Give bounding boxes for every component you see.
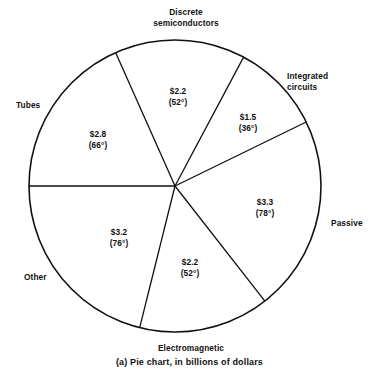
slice-value-degrees-tubes: (66°) — [89, 139, 108, 150]
slice-value-passive: $3.3 (78°) — [256, 197, 275, 218]
slice-value-amount-discrete-semiconductors: $2.2 — [169, 86, 188, 97]
spoke-62deg — [175, 57, 244, 186]
slice-value-degrees-discrete-semiconductors: (52°) — [169, 96, 188, 107]
category-label-integrated-circuits-line2: circuits — [287, 81, 328, 92]
category-label-discrete-semiconductors: Discrete semiconductors — [153, 7, 219, 28]
category-label-electromagnetic-line1: Electromagnetic — [158, 343, 224, 353]
slice-value-degrees-passive: (78°) — [256, 207, 275, 218]
slice-value-other: $3.2 (76°) — [110, 227, 129, 248]
category-label-discrete-semiconductors-line2: semiconductors — [153, 17, 219, 28]
category-label-other-line1: Other — [24, 272, 47, 282]
category-label-passive: Passive — [331, 218, 363, 229]
pie-slice-boundaries — [29, 53, 306, 328]
category-label-tubes-line1: Tubes — [16, 100, 40, 110]
pie-chart-canvas — [0, 0, 379, 376]
slice-value-electromagnetic: $2.2 (52°) — [181, 257, 200, 278]
spoke-114deg — [116, 53, 175, 186]
pie-chart-figure: $2.8 (66°) $2.2 (52°) $1.5 (36°) $3.3 (7… — [0, 0, 379, 376]
slice-value-amount-tubes: $2.8 — [89, 129, 108, 140]
slice-value-tubes: $2.8 (66°) — [89, 129, 108, 150]
figure-caption: (a) Pie chart, in billions of dollars — [0, 357, 379, 367]
category-label-tubes: Tubes — [16, 100, 40, 111]
category-label-integrated-circuits-line1: Integrated — [287, 71, 328, 81]
slice-value-amount-passive: $3.3 — [256, 197, 275, 208]
slice-value-amount-electromagnetic: $2.2 — [181, 257, 200, 268]
category-label-integrated-circuits: Integrated circuits — [287, 71, 328, 92]
category-label-other: Other — [24, 272, 47, 283]
slice-value-amount-other: $3.2 — [110, 227, 129, 238]
slice-value-integrated-circuits: $1.5 (36°) — [239, 112, 258, 133]
slice-value-amount-integrated-circuits: $1.5 — [239, 112, 258, 123]
category-label-passive-line1: Passive — [331, 218, 363, 228]
slice-value-degrees-other: (76°) — [110, 237, 129, 248]
category-label-electromagnetic: Electromagnetic — [158, 343, 224, 354]
slice-value-degrees-electromagnetic: (52°) — [181, 267, 200, 278]
spoke-neg104deg — [140, 186, 175, 328]
slice-value-discrete-semiconductors: $2.2 (52°) — [169, 86, 188, 107]
category-label-discrete-semiconductors-line1: Discrete — [169, 7, 203, 17]
slice-value-degrees-integrated-circuits: (36°) — [239, 122, 258, 133]
spoke-neg52deg — [175, 186, 265, 301]
